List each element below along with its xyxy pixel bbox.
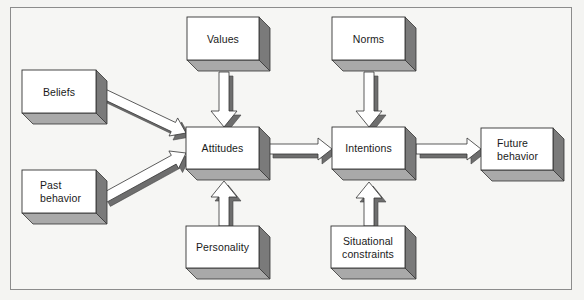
arrow-personality-to-attitudes (211, 181, 241, 230)
arrow-norms-to-intentions (356, 72, 386, 131)
node-label-line: Values (207, 33, 239, 45)
node-personality: Personality (186, 226, 270, 279)
node-label-line: Future (497, 137, 528, 149)
node-label: Beliefs (43, 86, 75, 98)
arrow-beliefs-to-attitudes (102, 89, 190, 140)
box-bottom-face (186, 169, 270, 180)
attitude-behavior-diagram: ValuesNormsBeliefsAttitudesIntentionsFut… (0, 0, 584, 300)
node-label: Personality (196, 241, 250, 253)
box-bottom-face (332, 169, 416, 180)
box-bottom-face (22, 113, 107, 124)
arrow-past-behavior-to-attitudes (102, 151, 190, 206)
node-label-line: Attitudes (202, 142, 244, 154)
node-label-line: Personality (196, 241, 250, 253)
node-norms: Norms (332, 17, 416, 71)
node-label-line: constraints (342, 248, 394, 260)
node-beliefs: Beliefs (22, 70, 107, 124)
node-label: Attitudes (202, 142, 244, 154)
node-label-line: behavior (40, 192, 81, 204)
arrow-intentions-to-future-behavior (416, 138, 485, 164)
node-intentions: Intentions (332, 127, 416, 180)
box-bottom-face (187, 60, 270, 71)
node-attitudes: Attitudes (186, 127, 270, 180)
box-bottom-face (481, 170, 564, 181)
box-bottom-face (332, 60, 416, 71)
box-bottom-face (331, 268, 416, 279)
node-label-line: behavior (497, 150, 538, 162)
arrows-layer (102, 72, 485, 230)
node-past-behavior: Pastbehavior (22, 170, 107, 224)
node-label-line: Intentions (345, 142, 392, 154)
arrow-beliefs-to-attitudes-body (102, 89, 186, 136)
arrow-values-to-attitudes (211, 72, 241, 131)
node-situational-constraints: Situationalconstraints (331, 226, 416, 279)
node-label: Values (207, 33, 239, 45)
box-bottom-face (22, 213, 107, 224)
node-label-line: Beliefs (43, 86, 75, 98)
node-label: Norms (353, 33, 384, 45)
box-bottom-face (186, 268, 270, 279)
node-future-behavior: Futurebehavior (481, 128, 564, 181)
node-label: Situationalconstraints (342, 235, 394, 260)
arrow-situational-constraints-to-intentions (356, 182, 386, 230)
node-values: Values (187, 17, 270, 71)
node-label-line: Situational (343, 235, 393, 247)
node-label-line: Past (40, 179, 61, 191)
arrow-past-behavior-to-attitudes-body (102, 151, 186, 202)
arrow-attitudes-to-intentions (269, 138, 336, 164)
node-label-line: Norms (353, 33, 384, 45)
node-label: Intentions (345, 142, 392, 154)
